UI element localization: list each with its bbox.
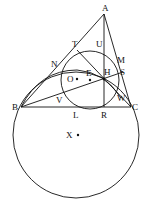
label-s: S [120,67,125,77]
label-a: A [102,3,109,13]
label-m: M [117,55,125,65]
label-b: B [12,102,18,112]
label-o: O [67,74,74,84]
label-h: H [104,67,111,77]
label-u: U [96,39,103,49]
label-n: N [51,59,58,69]
label-x: X [66,130,73,140]
label-e: E [86,68,92,78]
label-v: V [56,95,63,105]
label-c: C [132,102,138,112]
label-w: W [117,93,126,103]
geometry-diagram: A B C T U N M S H E O V W L R X [0,0,148,215]
label-t: T [72,39,78,49]
label-r: R [101,110,107,120]
label-l: L [73,110,79,120]
